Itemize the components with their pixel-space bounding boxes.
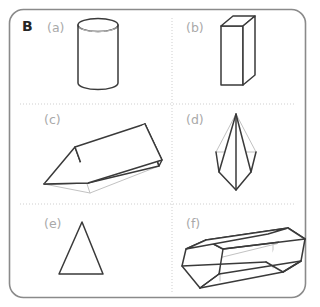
cylinder-top-ellipse [78,19,118,32]
item-label-b: (b) [186,20,204,35]
item-label-d: (d) [186,112,204,127]
section-letter: B [22,18,33,34]
item-label-a: (a) [47,20,64,35]
cuboid-front-face [221,26,243,85]
cuboid-shape [221,16,255,85]
item-label-e: (e) [44,216,61,231]
item-label-f: (f) [186,216,200,231]
figure-panel: B (a) (b) [0,0,320,307]
item-label-c: (c) [44,112,61,127]
cylinder-shape [78,19,118,90]
solids-figure-svg: B (a) (b) [0,0,320,307]
cuboid-right-face [243,16,255,85]
cylinder-body [78,25,118,90]
